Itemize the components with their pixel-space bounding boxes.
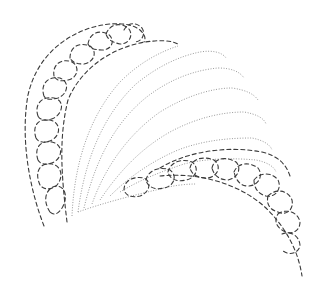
braid-hairstyle-drawing (0, 0, 336, 282)
lower-outline (160, 175, 302, 276)
illustration-canvas (0, 0, 336, 282)
inner-left-outline (62, 41, 178, 222)
inner-band (160, 149, 290, 176)
outer-outline (25, 24, 145, 226)
bottom-braid (124, 158, 300, 253)
hair-strands (72, 46, 276, 216)
